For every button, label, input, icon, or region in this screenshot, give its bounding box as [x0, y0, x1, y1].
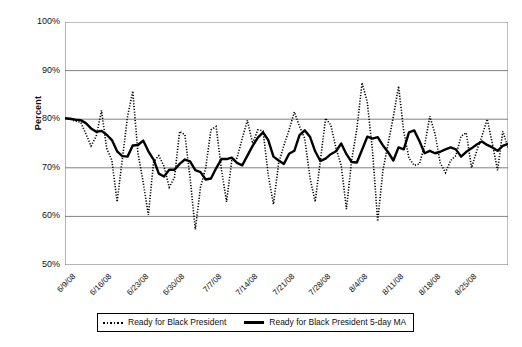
- chart-container: Percent 100%90%80%70%60%50% 6/9/086/16/0…: [0, 0, 522, 347]
- legend-item-label: Ready for Black President 5-day MA: [269, 318, 406, 327]
- chart-legend: Ready for Black PresidentReady for Black…: [97, 313, 414, 332]
- x-axis-tick-label: 6/23/08: [116, 272, 151, 307]
- y-axis-tick-label: 50%: [20, 260, 60, 269]
- legend-item[interactable]: Ready for Black President: [103, 318, 226, 327]
- y-axis-tick-label: 60%: [20, 211, 60, 220]
- x-axis-tick-label: 7/21/08: [262, 272, 297, 307]
- x-axis-tick-label: 6/16/08: [79, 272, 114, 307]
- x-axis-tick-label: 7/28/08: [298, 272, 333, 307]
- x-axis-tick-label: 8/4/08: [335, 272, 370, 307]
- series-line-raw: [65, 83, 508, 230]
- x-axis-tick-label: 8/25/08: [444, 272, 479, 307]
- legend-item-label: Ready for Black President: [128, 318, 226, 327]
- series-line-moving-average: [65, 118, 508, 179]
- x-axis-tick-label: 7/14/08: [225, 272, 260, 307]
- legend-swatch-solid-icon: [244, 320, 264, 326]
- x-axis-tick-label: 8/11/08: [371, 272, 406, 307]
- y-axis-tick-label: 80%: [20, 114, 60, 123]
- x-axis-tick-label: 8/18/08: [408, 272, 443, 307]
- chart-plot-svg: [65, 22, 508, 265]
- x-axis-tick-label: 7/7/08: [189, 272, 224, 307]
- y-axis-tick-label: 100%: [20, 17, 60, 26]
- plot-area: [65, 22, 508, 265]
- y-axis-tick-label: 70%: [20, 163, 60, 172]
- x-axis-tick-label: 6/30/08: [152, 272, 187, 307]
- legend-item[interactable]: Ready for Black President 5-day MA: [244, 318, 406, 327]
- legend-swatch-dotted-icon: [103, 320, 123, 326]
- y-axis-tick-label: 90%: [20, 66, 60, 75]
